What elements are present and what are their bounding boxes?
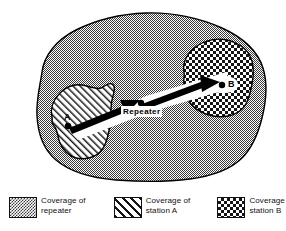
legend-label-repeater: Coverage ofrepeater xyxy=(41,196,86,215)
map-label-repeater: Repeater xyxy=(121,106,162,117)
legend-label-repeater-line1: Coverage of xyxy=(41,196,86,205)
legend-item-repeater: Coverage ofrepeater xyxy=(9,196,86,218)
legend-swatch-repeater xyxy=(9,197,37,218)
node-station-b xyxy=(219,82,225,88)
legend-label-station-b-line2: station B xyxy=(249,206,281,215)
legend: Coverage ofrepeater Coverage ofstation A… xyxy=(0,196,286,228)
node-station-a xyxy=(65,123,71,129)
legend-label-station-a-line1: Coverage of xyxy=(146,196,191,205)
legend-label-station-b: Coverage ofstation B xyxy=(249,196,286,215)
legend-swatch-station-b xyxy=(217,197,245,218)
legend-item-station-b: Coverage ofstation B xyxy=(217,196,286,218)
map-label-station-b: B xyxy=(228,79,235,89)
legend-label-station-b-line1: Coverage of xyxy=(249,196,286,205)
map-label-station-a: A xyxy=(64,112,71,122)
legend-label-station-a-line2: station A xyxy=(146,206,178,215)
legend-item-station-a: Coverage ofstation A xyxy=(114,196,191,218)
legend-label-station-a: Coverage ofstation A xyxy=(146,196,191,215)
legend-label-repeater-line2: repeater xyxy=(41,206,72,215)
legend-swatch-station-a xyxy=(114,197,142,218)
